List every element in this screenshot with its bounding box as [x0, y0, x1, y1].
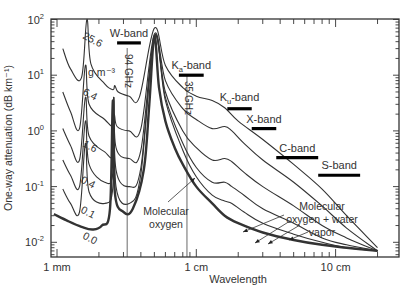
- frequency-marker-label: 35 GHz: [183, 81, 194, 115]
- atmospheric-attenuation-chart: 94 GHz35 GHz 25.66.41.60.40.10.0 W-bandK…: [0, 0, 411, 298]
- band-label: C-band: [279, 142, 315, 154]
- annotation-text: vapor: [309, 226, 336, 238]
- arrowhead-icon: [255, 239, 260, 243]
- annotations: MolecularoxygenMolecularoxygen + waterva…: [143, 178, 358, 244]
- annotation-text: Molecular: [299, 200, 345, 212]
- arrowhead-icon: [268, 240, 273, 244]
- y-tick-labels: 10210110010-110-2: [25, 12, 44, 249]
- series-label: 0.0: [81, 229, 100, 247]
- x-tick-label: 1 cm: [184, 261, 208, 273]
- band-label: Ka-band: [171, 59, 211, 74]
- y-tick-label: 100: [28, 123, 44, 137]
- y-tick-label: 10-1: [25, 179, 44, 193]
- x-tick-labels: 1 mm1 cm10 cm: [43, 261, 350, 273]
- y-tick-label: 10-2: [25, 234, 44, 248]
- band-label: W-band: [110, 27, 148, 39]
- annotation-text: Molecular: [143, 205, 189, 217]
- band-label: X-band: [246, 113, 281, 125]
- y-tick-label: 101: [28, 67, 44, 81]
- legend-title: g m⁻³: [88, 66, 116, 78]
- band-label: S-band: [321, 159, 356, 171]
- frequency-marker-label: 94 GHz: [123, 54, 134, 88]
- y-tick-label: 102: [28, 12, 44, 26]
- x-tick-label: 1 mm: [43, 261, 71, 273]
- x-tick-label: 10 cm: [321, 261, 351, 273]
- series-label: 0.1: [79, 203, 98, 221]
- band-label: Ku-band: [220, 91, 260, 106]
- arrowhead-icon: [243, 228, 248, 232]
- annotation-arrow: [168, 178, 195, 202]
- annotation-text: oxygen + water: [286, 213, 358, 225]
- x-axis-title: Wavelength: [209, 273, 267, 285]
- annotation-text: oxygen: [149, 218, 183, 230]
- y-axis-title: One-way attenuation (dB km⁻¹): [2, 65, 14, 211]
